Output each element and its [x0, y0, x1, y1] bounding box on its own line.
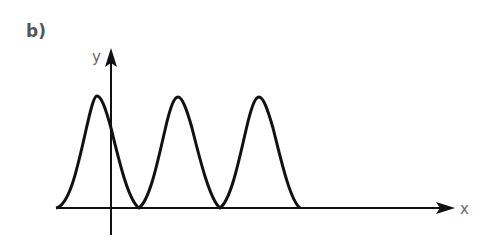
wave-diagram: x y — [0, 0, 494, 252]
wave-curve — [56, 96, 300, 208]
x-axis-label: x — [460, 200, 469, 218]
y-axis-label: y — [92, 48, 101, 66]
